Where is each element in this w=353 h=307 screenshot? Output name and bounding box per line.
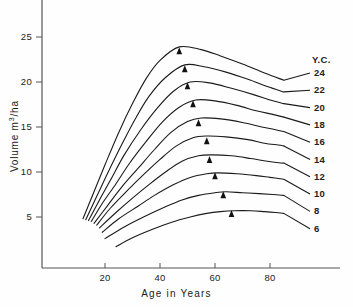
- chart-plot-area: [0, 0, 353, 307]
- leader-yc-6: [284, 213, 310, 228]
- legend-label-yc-24: 24: [314, 67, 325, 78]
- legend-label-yc-14: 14: [314, 154, 325, 165]
- leader-yc-8: [284, 195, 310, 211]
- leader-yc-20: [284, 104, 310, 108]
- axis-lines: [36, 0, 340, 268]
- legend-label-yc-8: 8: [314, 205, 320, 216]
- x-tick-label-40: 40: [140, 272, 180, 283]
- x-tick-label-60: 60: [195, 272, 235, 283]
- legend-leader-lines: [284, 73, 310, 229]
- marker-yc-24: [176, 47, 182, 54]
- x-axis-ticks: [105, 263, 270, 268]
- legend-label-yc-12: 12: [314, 171, 325, 182]
- y-axis-title: Volume m3/ha: [8, 76, 20, 196]
- curve-yc-6: [116, 211, 284, 247]
- y-axis-ticks: [36, 37, 42, 217]
- curve-yc-14: [97, 136, 284, 225]
- leader-yc-14: [284, 146, 310, 160]
- leader-yc-10: [284, 179, 310, 194]
- leader-yc-12: [284, 163, 310, 177]
- marker-yc-12: [207, 156, 213, 163]
- y-tick-label-25: 25: [2, 31, 32, 42]
- curve-yc-10: [102, 173, 284, 232]
- marker-yc-22: [182, 65, 188, 72]
- y-tick-label-5: 5: [2, 211, 32, 222]
- x-axis-title: Age in Years: [0, 288, 353, 299]
- leader-yc-18: [284, 117, 310, 125]
- yield-curves: [83, 46, 284, 246]
- legend-label-yc-6: 6: [314, 223, 320, 234]
- x-tick-label-20: 20: [85, 272, 125, 283]
- curve-yc-22: [86, 64, 284, 219]
- marker-yc-14: [204, 137, 210, 144]
- legend-label-yc-22: 22: [314, 84, 325, 95]
- yield-class-chart: 510152025 20406080 Y.C.24222018161412108…: [0, 0, 353, 307]
- leader-yc-16: [284, 132, 310, 143]
- legend-label-yc-18: 18: [314, 119, 325, 130]
- marker-yc-16: [196, 119, 202, 126]
- x-tick-label-80: 80: [250, 272, 290, 283]
- curve-yc-18: [91, 100, 284, 222]
- legend-label-yc-10: 10: [314, 188, 325, 199]
- leader-yc-22: [284, 90, 310, 92]
- legend-header: Y.C.: [312, 54, 331, 65]
- legend-label-yc-20: 20: [314, 102, 325, 113]
- legend-label-yc-16: 16: [314, 136, 325, 147]
- leader-yc-24: [284, 73, 310, 80]
